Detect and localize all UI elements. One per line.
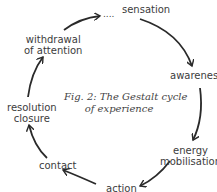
- stage-sensation: sensation: [122, 4, 170, 15]
- stage-awareness: awareness: [170, 70, 217, 81]
- energy-line2: mobilisation: [160, 156, 217, 167]
- arrow-contact-to-resolution: [29, 125, 47, 158]
- stage-energy-mobilisation: energy mobilisation: [160, 145, 217, 167]
- stage-action: action: [106, 183, 137, 192]
- withdrawal-line1: withdrawal: [24, 34, 82, 45]
- resolution-line2: closure: [7, 113, 57, 124]
- arrow-sensation-to-awareness: [140, 19, 192, 66]
- stage-resolution-closure: resolution closure: [7, 102, 57, 124]
- withdrawal-line2: of attention: [24, 45, 82, 56]
- ellipsis-dots: ....: [103, 9, 114, 19]
- stage-contact: contact: [39, 160, 76, 171]
- resolution-line1: resolution: [7, 102, 57, 113]
- energy-line1: energy: [160, 145, 217, 156]
- arrow-resolution-to-withdrawal: [28, 57, 43, 97]
- stage-withdrawal-of-attention: withdrawal of attention: [24, 34, 82, 56]
- arrow-awareness-to-energy: [193, 88, 201, 140]
- arrow-action-to-contact: [63, 170, 96, 184]
- figure-caption: Fig. 2: The Gestalt cycle of experience: [64, 91, 174, 115]
- caption-line1: Fig. 2: The Gestalt cycle: [64, 91, 174, 103]
- caption-line2: of experience: [64, 103, 174, 115]
- arrow-withdrawal-to-sensation: [64, 16, 100, 30]
